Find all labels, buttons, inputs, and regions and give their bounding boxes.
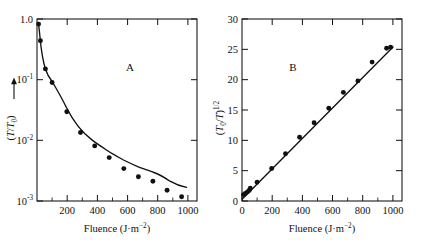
panel-letter-a: A <box>126 61 134 73</box>
y-tick-exp-a-1: -1 <box>27 73 33 81</box>
panel-letter-b: B <box>289 61 296 73</box>
plot-frame-a <box>37 19 197 201</box>
y-tick-base-a-3: 10 <box>17 196 28 207</box>
y-axis-major-ticks-b <box>242 19 402 201</box>
two-panel-figure: 1.0 10-1 10-2 10-3 200 400 600 800 1000 … <box>0 0 421 247</box>
y-tick-label-b-2: 10 <box>228 135 239 146</box>
svg-text:Fluence (J·m−2): Fluence (J·m−2) <box>289 222 356 235</box>
x-axis-top-ticks-a <box>67 19 188 25</box>
y-tick-base-a-1: 10 <box>17 74 28 85</box>
data-point <box>50 80 55 85</box>
data-point <box>38 38 43 43</box>
x-tick-label-b-4: 800 <box>355 205 371 216</box>
x-tick-label-b-3: 600 <box>325 205 341 216</box>
svg-text:Fluence (J·m−2): Fluence (J·m−2) <box>84 222 151 235</box>
x-tick-label-b-1: 200 <box>264 205 280 216</box>
y-axis-title-a: (T/T0) <box>5 78 19 141</box>
x-tick-label-b-5: 1000 <box>382 205 403 216</box>
data-point <box>121 166 126 171</box>
data-point <box>36 22 41 27</box>
y-axis-major-ticks-a <box>37 19 197 201</box>
y-tick-label-b-5: 25 <box>228 44 239 55</box>
y-tick-label-b-3: 15 <box>228 105 239 116</box>
data-point <box>150 179 155 184</box>
svg-text:(T0/T)1/2: (T0/T)1/2 <box>213 100 228 135</box>
data-point <box>283 151 288 156</box>
svg-text:10-3: 10-3 <box>17 194 34 206</box>
y-tick-label-a-3: 10-3 <box>17 194 34 206</box>
svg-text:10-1: 10-1 <box>17 73 34 85</box>
data-point <box>269 166 274 171</box>
data-point <box>355 78 360 83</box>
data-point <box>326 106 331 111</box>
data-point <box>165 188 170 193</box>
y-axis-title-b: (T0/T)1/2 <box>213 100 228 135</box>
y-tick-label-b-4: 20 <box>228 74 239 85</box>
data-point <box>43 66 48 71</box>
x-tick-label-a-2: 600 <box>120 205 136 216</box>
y-tick-label-b-0: 0 <box>233 196 238 207</box>
panel-a-plot: 1.0 10-1 10-2 10-3 200 400 600 800 1000 … <box>0 0 210 247</box>
panel-b-plot: 0 5 10 15 20 25 30 0 200 400 600 800 100… <box>211 0 421 247</box>
data-curve-a <box>39 23 187 188</box>
x-tick-label-b-0: 0 <box>239 205 244 216</box>
data-point <box>341 90 346 95</box>
panel-b: 0 5 10 15 20 25 30 0 200 400 600 800 100… <box>211 0 421 247</box>
data-point <box>388 45 393 50</box>
x-axis-title-a: Fluence (J·m−2) <box>84 222 151 235</box>
data-point <box>107 155 112 160</box>
panel-a: 1.0 10-1 10-2 10-3 200 400 600 800 1000 … <box>0 0 210 247</box>
data-point <box>255 180 260 185</box>
x-tick-label-a-3: 800 <box>150 205 166 216</box>
data-point <box>370 60 375 65</box>
data-points-a <box>36 22 184 200</box>
x-tick-label-a-0: 200 <box>59 205 75 216</box>
data-point <box>312 120 317 125</box>
y-tick-label-b-1: 5 <box>233 165 238 176</box>
data-point <box>78 130 83 135</box>
x-axis-top-ticks-b <box>272 19 393 25</box>
x-tick-label-a-4: 1000 <box>177 205 198 216</box>
x-axis-title-b: Fluence (J·m−2) <box>289 222 356 235</box>
y-tick-exp-a-3: -3 <box>27 194 33 202</box>
fit-line-b <box>242 47 393 199</box>
x-tick-label-a-1: 400 <box>90 205 106 216</box>
y-tick-label-b-6: 30 <box>228 14 239 25</box>
data-point <box>297 135 302 140</box>
svg-text:10-2: 10-2 <box>17 134 34 146</box>
data-point <box>248 186 253 191</box>
y-tick-label-a-1: 10-1 <box>17 73 34 85</box>
data-point <box>92 143 97 148</box>
data-point <box>179 194 184 199</box>
x-tick-label-b-2: 400 <box>295 205 311 216</box>
data-points-b <box>241 45 393 197</box>
data-point <box>64 109 69 114</box>
y-tick-label-a-2: 10-2 <box>17 134 34 146</box>
plot-frame-b <box>242 19 402 201</box>
y-tick-base-a-2: 10 <box>17 135 28 146</box>
y-tick-label-a-0: 1.0 <box>20 14 33 25</box>
data-point <box>136 174 141 179</box>
x-axis-major-ticks-a <box>67 195 188 201</box>
y-tick-exp-a-2: -2 <box>27 134 33 142</box>
